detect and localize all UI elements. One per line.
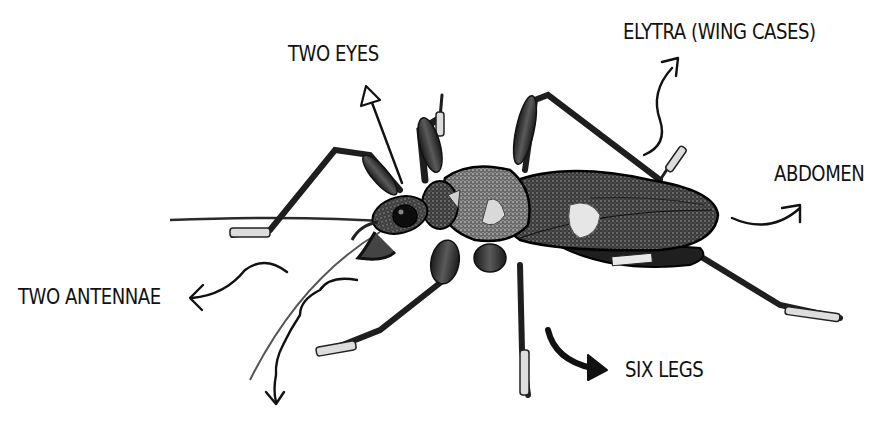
insect-illustration bbox=[0, 0, 895, 423]
label-two-antennae: TWO ANTENNAE bbox=[18, 285, 161, 309]
insect-anatomy-diagram: TWO EYES ELYTRA (WING CASES) ABDOMEN TWO… bbox=[0, 0, 895, 423]
label-two-eyes: TWO EYES bbox=[288, 42, 379, 66]
legs-arrow-icon bbox=[548, 330, 607, 380]
label-abdomen: ABDOMEN bbox=[774, 162, 864, 186]
abdomen-arrow-icon bbox=[732, 205, 800, 225]
antennae-down-arrow-icon bbox=[266, 279, 357, 404]
label-six-legs: SIX LEGS bbox=[625, 358, 703, 382]
insect-body bbox=[352, 166, 718, 267]
label-elytra: ELYTRA (WING CASES) bbox=[623, 20, 816, 44]
antennae bbox=[170, 218, 395, 380]
eye-shape bbox=[393, 205, 417, 227]
elytra-arrow-icon bbox=[644, 58, 678, 155]
antennae-arrow-icon bbox=[190, 263, 287, 310]
leg-tarsi bbox=[230, 112, 840, 395]
